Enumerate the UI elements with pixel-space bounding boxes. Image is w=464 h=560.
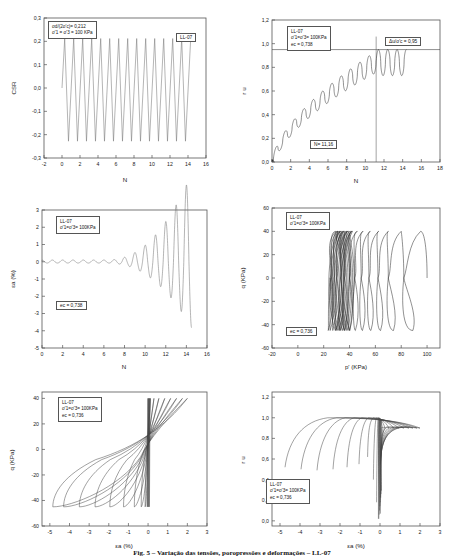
svg-text:-20: -20 <box>32 472 40 478</box>
svg-text:-3: -3 <box>34 310 39 316</box>
svg-text:-60: -60 <box>32 523 40 529</box>
chart-q-vs-p-prime: -20020406080100-60-40-200204060 p' (KPa)… <box>232 188 464 374</box>
svg-text:3: 3 <box>439 529 442 535</box>
annot-line: LL-07 <box>290 215 326 222</box>
panel-q-vs-p-prime: -20020406080100-60-40-200204060 p' (KPa)… <box>232 188 464 374</box>
svg-text:2: 2 <box>61 351 64 357</box>
figure-cyclic-triaxial-ll07: -20246810121416-0,3-0,2-0,10,00,10,20,3 … <box>0 0 464 560</box>
annot-line: σd/(2σ'c)= 0,212 <box>52 24 93 31</box>
svg-text:-2: -2 <box>338 529 343 535</box>
svg-text:14: 14 <box>183 351 189 357</box>
panel-ru-vs-strain: -5-4-3-2-101230,00,20,40,60,81,01,2 εa (… <box>232 374 464 554</box>
svg-text:0,0: 0,0 <box>34 85 41 91</box>
chart-ru-vs-strain: -5-4-3-2-101230,00,20,40,60,81,01,2 εa (… <box>232 374 464 554</box>
svg-text:-40: -40 <box>262 322 270 328</box>
svg-text:3: 3 <box>206 529 209 535</box>
svg-text:0,4: 0,4 <box>262 112 269 118</box>
svg-text:-1: -1 <box>34 276 39 282</box>
svg-text:14: 14 <box>400 165 406 171</box>
figure-caption: Fig. 5 – Variação das tensões, poropress… <box>0 549 464 560</box>
svg-text:-5: -5 <box>48 529 53 535</box>
specimen-tag-csr: LL-07 <box>176 33 196 42</box>
svg-text:-60: -60 <box>262 345 270 351</box>
svg-text:1,2: 1,2 <box>262 17 269 23</box>
annotation-test-conditions-qp: LL-07 σ'1=σ'3= 100KPa <box>286 212 330 230</box>
annotation-test-conditions-qe: LL-07 σ'1=σ'3= 100KPa ec = 0,736 <box>58 397 102 422</box>
svg-text:1: 1 <box>399 529 402 535</box>
svg-text:0,8: 0,8 <box>262 435 269 441</box>
svg-text:0: 0 <box>36 259 39 265</box>
annot-line: σ'1=σ'3= 100KPa <box>62 406 98 413</box>
svg-text:8: 8 <box>133 161 136 167</box>
chart-q-vs-strain: -5-4-3-2-10123-60-40-2002040 εa (%) q (K… <box>0 374 232 554</box>
svg-text:1,0: 1,0 <box>262 41 269 47</box>
annotation-void-ratio-qp: ec = 0,736 <box>286 327 317 336</box>
svg-text:-4: -4 <box>34 328 39 334</box>
svg-text:r u: r u <box>239 456 246 464</box>
svg-text:1,0: 1,0 <box>262 415 269 421</box>
svg-text:-0,3: -0,3 <box>32 155 41 161</box>
svg-text:4: 4 <box>97 161 100 167</box>
annot-line: ec = 0,736 <box>62 413 98 420</box>
svg-text:10: 10 <box>149 161 155 167</box>
svg-text:0,2: 0,2 <box>34 38 41 44</box>
annotation-liquefaction-cycles: N= 11,16 <box>310 140 337 149</box>
svg-text:0: 0 <box>147 529 150 535</box>
annot-line: σ'1 = σ'3 = 100 KPa <box>52 30 93 37</box>
svg-text:-2: -2 <box>106 529 111 535</box>
svg-text:0: 0 <box>271 165 274 171</box>
annotation-test-conditions-strain: LL-07 σ'1=σ'3= 100KPa <box>56 216 100 234</box>
svg-text:10: 10 <box>362 165 368 171</box>
svg-text:12: 12 <box>381 165 387 171</box>
annot-line: ec = 0,738 <box>291 42 327 49</box>
svg-text:10: 10 <box>142 351 148 357</box>
svg-text:20: 20 <box>321 351 327 357</box>
svg-text:-20: -20 <box>262 298 270 304</box>
svg-text:12: 12 <box>167 161 173 167</box>
svg-text:-5: -5 <box>34 345 39 351</box>
svg-text:0,8: 0,8 <box>262 64 269 70</box>
svg-text:-0,1: -0,1 <box>32 108 41 114</box>
svg-text:40: 40 <box>33 395 39 401</box>
svg-text:6: 6 <box>115 161 118 167</box>
svg-text:-3: -3 <box>318 529 323 535</box>
svg-text:-40: -40 <box>32 497 40 503</box>
svg-text:40: 40 <box>347 351 353 357</box>
svg-text:0,0: 0,0 <box>262 159 269 165</box>
annot-line: σ'1=σ'3= 100KPa <box>270 488 306 495</box>
svg-text:-4: -4 <box>67 529 72 535</box>
annot-line: LL-07 <box>291 29 327 36</box>
svg-text:2: 2 <box>36 224 39 230</box>
svg-text:6: 6 <box>327 165 330 171</box>
panel-csr-vs-n: -20246810121416-0,3-0,2-0,10,00,10,20,3 … <box>0 0 232 188</box>
svg-text:16: 16 <box>204 351 210 357</box>
annotation-void-ratio-strain: ec = 0,738 <box>56 301 87 310</box>
svg-text:0: 0 <box>379 529 382 535</box>
svg-text:-20: -20 <box>268 351 276 357</box>
panel-q-vs-strain: -5-4-3-2-10123-60-40-2002040 εa (%) q (K… <box>0 374 232 554</box>
chart-csr-vs-n: -20246810121416-0,3-0,2-0,10,00,10,20,3 … <box>0 0 232 188</box>
svg-text:-4: -4 <box>298 529 303 535</box>
chart-strain-vs-n: 0246810121416-5-4-3-2-10123 N εa (%) <box>0 188 232 374</box>
svg-text:0: 0 <box>41 351 44 357</box>
svg-text:4: 4 <box>308 165 311 171</box>
svg-text:8: 8 <box>123 351 126 357</box>
svg-text:-2: -2 <box>34 293 39 299</box>
svg-text:2: 2 <box>186 529 189 535</box>
svg-text:N: N <box>122 363 126 370</box>
svg-text:-3: -3 <box>87 529 92 535</box>
svg-text:0,0: 0,0 <box>262 518 269 524</box>
panel-strain-vs-n: 0246810121416-5-4-3-2-10123 N εa (%) LL-… <box>0 188 232 374</box>
annotation-pore-pressure-ratio: Δu/σ'c = 0,95 <box>385 37 421 46</box>
annot-line: σ'1=σ'3= 100KPa <box>60 225 96 232</box>
svg-text:N: N <box>354 177 358 184</box>
svg-text:εa (%): εa (%) <box>347 542 365 549</box>
annot-line: LL-07 <box>62 400 98 407</box>
svg-text:N: N <box>123 176 127 183</box>
svg-text:100: 100 <box>423 351 432 357</box>
annot-line: ec = 0,736 <box>270 495 306 502</box>
svg-text:3: 3 <box>36 207 39 213</box>
svg-text:0,6: 0,6 <box>262 88 269 94</box>
svg-text:2: 2 <box>79 161 82 167</box>
svg-text:20: 20 <box>263 252 269 258</box>
